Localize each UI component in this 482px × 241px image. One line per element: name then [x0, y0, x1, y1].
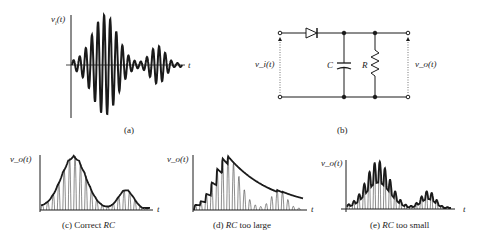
panel-b-caption: (b): [337, 125, 348, 135]
input-terminal-top: [278, 31, 282, 35]
circuit-input-label: v_i(t): [255, 59, 275, 69]
panel-c-x-label: t: [157, 204, 160, 214]
diode-icon: [306, 28, 317, 38]
panel-d-plot: [193, 155, 307, 212]
panel-a-caption: (a): [124, 125, 134, 135]
panel-e-y-label: v_o(t): [321, 158, 343, 168]
output-terminal-bottom: [406, 95, 410, 99]
panel-a-x-label: t: [188, 60, 191, 70]
resistor-icon: [371, 50, 379, 76]
panel-e-plot: [341, 160, 455, 212]
panel-e-caption: (e) RC too small: [370, 220, 429, 230]
resistor-label: R: [362, 60, 368, 70]
panel-a-plot: [66, 15, 185, 118]
panel-c-caption: (c) Correct RC: [62, 220, 115, 230]
panel-c-y-label: v_o(t): [10, 154, 32, 164]
panel-d-y-label: v_o(t): [167, 154, 189, 164]
capacitor-label: C: [327, 60, 333, 70]
panel-c-plot: [40, 155, 153, 212]
panel-b-circuit: [278, 28, 410, 99]
circuit-output-label: v_o(t): [415, 59, 437, 69]
figure-canvas: [0, 0, 482, 241]
input-terminal-bottom: [278, 95, 282, 99]
output-terminal-top: [406, 31, 410, 35]
panel-d-caption: (d) RC too large: [213, 220, 271, 230]
panel-d-x-label: t: [311, 204, 314, 214]
panel-e-x-label: t: [463, 204, 466, 214]
panel-a-y-label: vi(t): [51, 14, 65, 26]
